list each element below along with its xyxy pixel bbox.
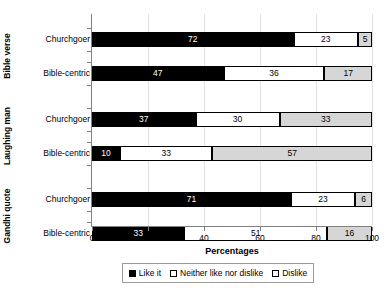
- group-label-text: Gandhi quote: [2, 176, 12, 256]
- x-axis-tick: [204, 227, 205, 231]
- y-axis-tick: [87, 108, 91, 109]
- category-label: Churchgoer: [20, 34, 90, 45]
- x-axis-tick: [148, 227, 149, 231]
- y-axis-tick: [87, 62, 91, 63]
- bar-segment: 23: [291, 192, 355, 207]
- x-tick-label: 40: [189, 233, 219, 243]
- x-axis-tick: [316, 227, 317, 231]
- category-label: Churchgoer: [20, 194, 90, 205]
- category-label: Bible-centric: [20, 148, 90, 159]
- group-label-text: Laughing man: [2, 96, 12, 176]
- legend-label: Neither like nor dislike: [180, 268, 263, 278]
- x-axis-tick: [92, 227, 93, 231]
- x-tick-label: 80: [301, 233, 331, 243]
- bar-segment: 5: [358, 32, 372, 47]
- bar-segment: 37: [92, 112, 196, 127]
- x-axis-title: Percentages: [92, 246, 372, 256]
- x-tick-label: 0: [77, 233, 107, 243]
- bar-row: 103357: [92, 146, 372, 161]
- y-axis-tick: [87, 222, 91, 223]
- legend-label: Like it: [139, 268, 161, 278]
- y-axis-tick: [87, 211, 91, 212]
- bar-row: 473617: [92, 66, 372, 81]
- bar-row: 71236: [92, 192, 372, 207]
- bar-segment: 71: [92, 192, 291, 207]
- x-tick-label: 60: [245, 233, 275, 243]
- bar-segment: 36: [224, 66, 325, 81]
- group-label: Bible verse: [0, 32, 14, 81]
- bar-row: 72235: [92, 32, 372, 47]
- legend-label: Dislike: [282, 268, 307, 278]
- bar-segment: 17: [324, 66, 372, 81]
- x-tick-label: 100: [357, 233, 387, 243]
- legend-swatch-icon: [129, 270, 136, 277]
- legend-swatch-icon: [170, 270, 177, 277]
- legend-swatch-icon: [272, 270, 279, 277]
- bar-segment: 33: [280, 112, 372, 127]
- x-axis-line: [91, 226, 372, 227]
- bar-segment: 72: [92, 32, 294, 47]
- y-axis-tick: [87, 131, 91, 132]
- legend-item[interactable]: Neither like nor dislike: [170, 268, 263, 278]
- category-label-axis: ChurchgoerBible-centricChurchgoerBible-c…: [14, 0, 90, 297]
- category-label: Bible-centric: [20, 68, 90, 79]
- group-label: Laughing man: [0, 112, 14, 161]
- category-label: Churchgoer: [20, 114, 90, 125]
- y-axis-tick: [87, 51, 91, 52]
- gridline: [372, 14, 373, 226]
- x-axis-tick: [260, 227, 261, 231]
- y-axis-tick: [87, 85, 91, 86]
- bar-segment: 47: [92, 66, 224, 81]
- bar-segment: 33: [120, 146, 212, 161]
- group-label: Gandhi quote: [0, 192, 14, 241]
- bar-segment: 57: [212, 146, 372, 161]
- group-label-text: Bible verse: [2, 16, 12, 96]
- bar-segment: 6: [355, 192, 372, 207]
- plot-area: 7223547361737303310335771236335116: [92, 14, 372, 226]
- y-axis-tick: [87, 142, 91, 143]
- legend-item[interactable]: Like it: [129, 268, 161, 278]
- legend-item[interactable]: Dislike: [272, 268, 307, 278]
- bar-segment: 10: [92, 146, 120, 161]
- x-tick-label: 20: [133, 233, 163, 243]
- bar-segment: 30: [196, 112, 280, 127]
- chart-legend: Like itNeither like nor dislikeDislike: [122, 263, 314, 283]
- y-axis-tick: [87, 188, 91, 189]
- y-axis-tick: [87, 165, 91, 166]
- bar-row: 373033: [92, 112, 372, 127]
- bar-segment: 23: [294, 32, 358, 47]
- y-axis-tick: [87, 28, 91, 29]
- x-axis-tick: [372, 227, 373, 231]
- stacked-bar-chart: Bible verseLaughing manGandhi quote Chur…: [0, 0, 392, 297]
